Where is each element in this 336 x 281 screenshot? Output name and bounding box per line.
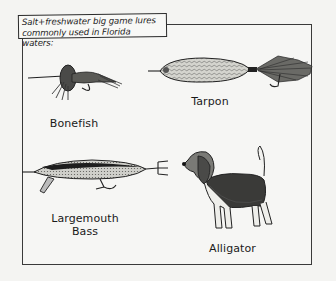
caption-line-2: commonly used in Florida waters: <box>22 26 163 49</box>
largemouth-bass-label-line-1: Largemouth <box>40 212 130 225</box>
bonefish-label: Bonefish <box>44 117 104 130</box>
caption-line-1: Salt+freshwater big game lures <box>22 15 163 27</box>
largemouth-bass-label-line-2: Bass <box>40 225 130 238</box>
tarpon-label: Tarpon <box>180 95 240 108</box>
tarpon-spoon-lure-icon <box>148 52 316 92</box>
largemouth-bass-crankbait-lure-icon <box>22 155 172 195</box>
beagle-dog-icon <box>180 146 280 232</box>
largemouth-bass-label: Largemouth Bass <box>40 212 130 238</box>
caption-box: Salt+freshwater big game lures commonly … <box>18 13 167 39</box>
bonefish-fly-lure-icon <box>26 60 126 110</box>
alligator-label: Alligator <box>195 242 270 255</box>
